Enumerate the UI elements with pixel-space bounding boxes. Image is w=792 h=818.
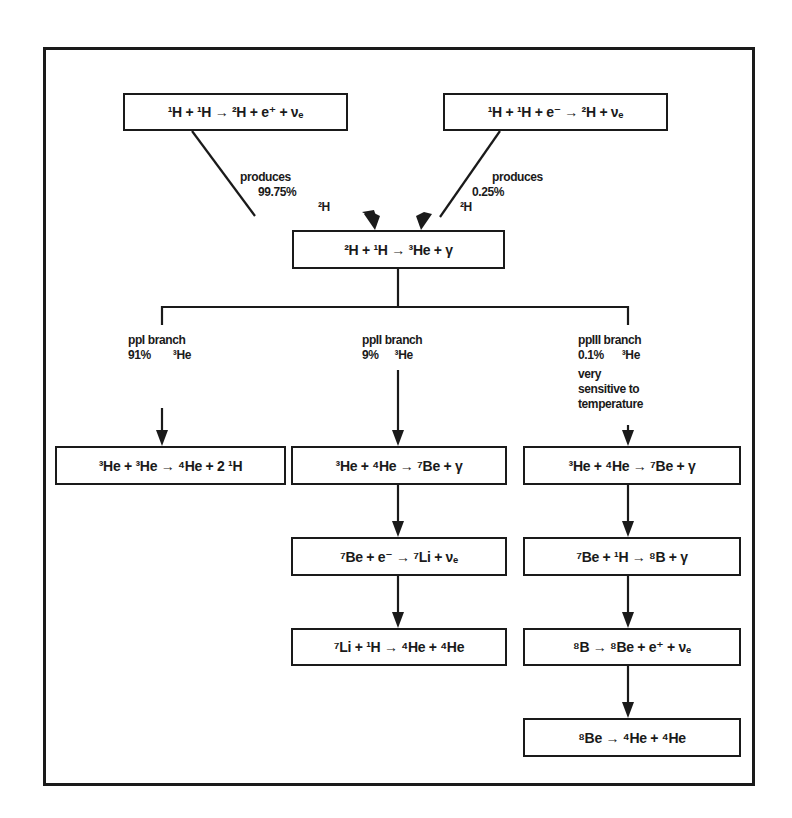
reaction-text: ⁸Be → ⁴He + ⁴He [578, 730, 685, 746]
branch-percent: 0.1% [578, 348, 604, 362]
branch-name: ppIII branch [578, 333, 643, 348]
reaction-box-ppii-1: ³He + ⁴He → ⁷Be + γ [291, 446, 507, 485]
reaction-text: ⁷Li + ¹H → ⁴He + ⁴He [334, 639, 464, 655]
branch-label-ppiii: ppIII branch 0.1%³He very sensitive to t… [578, 333, 643, 412]
diagram-frame [43, 47, 755, 786]
reaction-box-ppi-1: ³He + ³He → ⁴He + 2 ¹H [55, 446, 286, 485]
branch-name: ppI branch [128, 333, 191, 348]
arrow-label-right-produces: produces [492, 170, 543, 185]
reaction-box-ppiii-3: ⁸B → ⁸Be + e⁺ + νₑ [523, 628, 741, 666]
branch-label-ppii: ppII branch 9%³He [362, 333, 422, 363]
reaction-text: ¹H + ¹H + e⁻ → ²H + νₑ [488, 104, 624, 120]
reaction-text: ⁷Be + e⁻ → ⁷Li + νₑ [340, 549, 458, 565]
reaction-box-pep: ¹H + ¹H + e⁻ → ²H + νₑ [443, 93, 668, 131]
branch-product: ³He [622, 348, 640, 362]
reaction-box-ppiii-2: ⁷Be + ¹H → ⁸B + γ [523, 537, 741, 576]
branch-name: ppII branch [362, 333, 422, 348]
reaction-box-ppii-3: ⁷Li + ¹H → ⁴He + ⁴He [291, 628, 507, 666]
reaction-box-center: ²H + ¹H → ³He + γ [292, 230, 505, 269]
reaction-text: ⁸B → ⁸Be + e⁺ + νₑ [573, 639, 691, 655]
reaction-text: ²H + ¹H → ³He + γ [344, 242, 452, 258]
reaction-box-ppii-2: ⁷Be + e⁻ → ⁷Li + νₑ [291, 537, 507, 576]
reaction-box-pp: ¹H + ¹H → ²H + e⁺ + νₑ [123, 93, 348, 131]
reaction-text: ³He + ⁴He → ⁷Be + γ [336, 458, 463, 474]
arrow-label-left-produces: produces [240, 170, 291, 185]
arrow-label-left-product: ²H [318, 200, 330, 215]
reaction-box-ppiii-1: ³He + ⁴He → ⁷Be + γ [523, 446, 741, 485]
branch-percent: 9% [362, 348, 379, 362]
arrow-label-left-percent: 99.75% [258, 185, 296, 200]
arrow-label-right-product: ²H [460, 200, 472, 215]
branch-percent: 91% [128, 348, 151, 362]
reaction-text: ¹H + ¹H → ²H + e⁺ + νₑ [168, 104, 304, 120]
branch-label-ppi: ppI branch 91%³He [128, 333, 191, 363]
branch-product: ³He [173, 348, 191, 362]
arrow-label-right-percent: 0.25% [472, 185, 504, 200]
branch-note-line: temperature [578, 397, 643, 412]
branch-note-line: very [578, 367, 643, 382]
branch-note-line: sensitive to [578, 382, 643, 397]
reaction-text: ³He + ³He → ⁴He + 2 ¹H [99, 458, 242, 474]
reaction-box-ppiii-4: ⁸Be → ⁴He + ⁴He [523, 718, 741, 757]
reaction-text: ⁷Be + ¹H → ⁸B + γ [576, 549, 688, 565]
reaction-text: ³He + ⁴He → ⁷Be + γ [569, 458, 696, 474]
branch-product: ³He [395, 348, 413, 362]
